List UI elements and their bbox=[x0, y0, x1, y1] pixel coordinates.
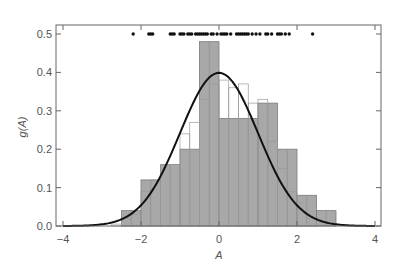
sample-dot bbox=[182, 32, 185, 35]
x-tick-label: −2 bbox=[135, 233, 148, 245]
sample-dot bbox=[151, 32, 154, 35]
sample-dot bbox=[229, 32, 232, 35]
sample-dot bbox=[254, 32, 257, 35]
sample-dot bbox=[132, 32, 135, 35]
sample-dot bbox=[247, 32, 250, 35]
sample-dot bbox=[288, 32, 291, 35]
y-tick-label: 0.5 bbox=[37, 28, 52, 40]
y-axis-label: g(A) bbox=[16, 116, 28, 137]
y-tick-label: 0.4 bbox=[37, 66, 52, 78]
sample-dot bbox=[225, 32, 228, 35]
x-tick-label: 2 bbox=[294, 233, 300, 245]
sample-dot bbox=[258, 32, 261, 35]
sample-dot bbox=[250, 32, 253, 35]
sample-dot bbox=[284, 32, 287, 35]
y-tick-label: 0.0 bbox=[37, 220, 52, 232]
sample-dot bbox=[280, 32, 283, 35]
sample-dot bbox=[211, 32, 214, 35]
sample-dot bbox=[215, 32, 218, 35]
x-tick-label: 4 bbox=[372, 233, 378, 245]
x-tick-label: 0 bbox=[216, 233, 222, 245]
sample-dot bbox=[206, 32, 209, 35]
sample-dot bbox=[172, 32, 175, 35]
sample-points bbox=[132, 32, 315, 35]
y-tick-label: 0.1 bbox=[37, 182, 52, 194]
sample-dot bbox=[266, 32, 269, 35]
x-axis-label: A bbox=[214, 249, 222, 261]
y-tick-label: 0.2 bbox=[37, 143, 52, 155]
x-tick-label: −4 bbox=[57, 233, 70, 245]
sample-dot bbox=[190, 32, 193, 35]
y-tick-label: 0.3 bbox=[37, 105, 52, 117]
histogram-chart: −4−2024 0.00.10.20.30.40.5 A g(A) bbox=[0, 0, 400, 273]
sample-dot bbox=[311, 32, 314, 35]
sample-dot bbox=[270, 32, 273, 35]
